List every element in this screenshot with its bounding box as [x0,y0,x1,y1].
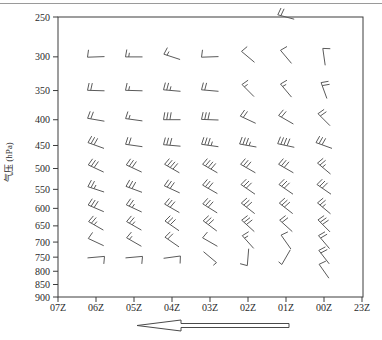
wind-barb [203,216,217,231]
wind-barb [165,159,180,173]
wind-barb [281,80,292,97]
x-tick-label: 02Z [240,302,256,313]
wind-barb [126,112,143,121]
y-tick-label: 900 [35,292,50,303]
wind-barb [165,232,179,247]
wind-barb [279,198,292,214]
wind-barb [241,179,255,194]
wind-barb [278,8,294,19]
wind-barb [202,112,219,120]
wind-barb [88,83,105,91]
wind-barb [319,261,329,278]
wind-barb [126,256,143,264]
wind-barb [127,216,142,230]
wind-barb [241,198,254,214]
wind-barb [126,83,143,91]
y-tick-label: 400 [35,114,50,125]
wind-barb [321,81,330,98]
wind-barb [317,179,331,194]
wind-barb [316,136,332,148]
wind-barb [164,180,179,193]
plot-area [58,17,363,297]
y-tick-label: 750 [35,252,50,263]
wind-barb [241,159,256,173]
x-tick-label: 06Z [88,302,104,313]
wind-barb [203,159,218,173]
wind-barb [88,199,104,212]
y-axis: 2503003504004505005506006507007508008509… [35,12,58,303]
x-axis: 07Z06Z05Z04Z03Z02Z01Z00Z23Z [50,297,370,313]
wind-barb [240,137,257,147]
wind-barb [318,198,331,214]
wind-barb-chart-canvas: 2503003504004505005506006507007508008509… [0,0,382,340]
y-tick-label: 650 [35,220,50,231]
wind-barb [242,232,253,249]
wind-barb [88,159,103,172]
wind-barb [89,216,104,230]
wind-barb [202,50,219,57]
wind-barb [318,216,330,232]
y-tick-label: 550 [35,184,50,195]
x-tick-label: 05Z [126,302,142,313]
y-tick-label: 250 [35,12,50,23]
wind-barb [203,198,217,213]
wind-barb [242,47,255,63]
wind-barb [242,80,254,96]
wind-barb [319,232,330,249]
wind-barb [126,180,142,192]
wind-barb [240,249,249,266]
wind-barb [164,83,181,92]
wind-barb [88,111,105,121]
wind-barb [126,137,143,147]
wind-barb [126,50,143,57]
wind-barb [202,83,219,92]
wind-barb [279,250,291,265]
wind-profile-screen: 气压 (hPa) 2503003504004505005506006507007… [0,0,382,340]
x-tick-label: 23Z [354,302,370,313]
wind-barb [88,180,104,192]
wind-barb [88,232,103,245]
wind-barb [88,256,105,264]
y-tick-label: 850 [35,279,50,290]
wind-barb [281,232,291,249]
wind-barb [203,179,218,193]
wind-barb [318,109,330,125]
wind-barb [88,136,104,148]
wind-barb [202,137,219,147]
wind-barb [164,256,181,264]
wind-barb [165,198,180,212]
wind-barb [126,159,141,172]
wind-barbs [88,8,333,278]
wind-barb [203,232,218,246]
x-tick-label: 03Z [202,302,218,313]
wind-barb [323,48,331,65]
wind-barb [278,137,295,148]
y-tick-label: 450 [35,140,50,151]
wind-barb [164,48,180,60]
y-tick-label: 600 [35,203,50,214]
time-direction-arrow [137,320,289,331]
wind-barb [279,159,294,173]
x-tick-label: 01Z [278,302,294,313]
wind-barb [240,110,255,123]
wind-barb [318,158,331,174]
wind-barb [279,110,294,124]
x-tick-label: 00Z [316,302,332,313]
wind-barb [126,199,141,212]
wind-barb [281,47,292,64]
wind-barb [165,216,179,231]
y-tick-label: 500 [35,163,50,174]
wind-barb [127,232,142,246]
wind-barb [88,50,105,57]
wind-barb [242,216,255,232]
y-tick-label: 800 [35,266,50,277]
y-tick-label: 700 [35,237,50,248]
wind-barb [164,138,181,147]
wind-barb [164,112,181,119]
y-tick-label: 300 [35,51,50,62]
wind-barb [319,247,329,264]
x-tick-label: 04Z [164,302,180,313]
wind-barb [204,252,217,266]
y-tick-label: 350 [35,85,50,96]
wind-barb [279,179,293,194]
